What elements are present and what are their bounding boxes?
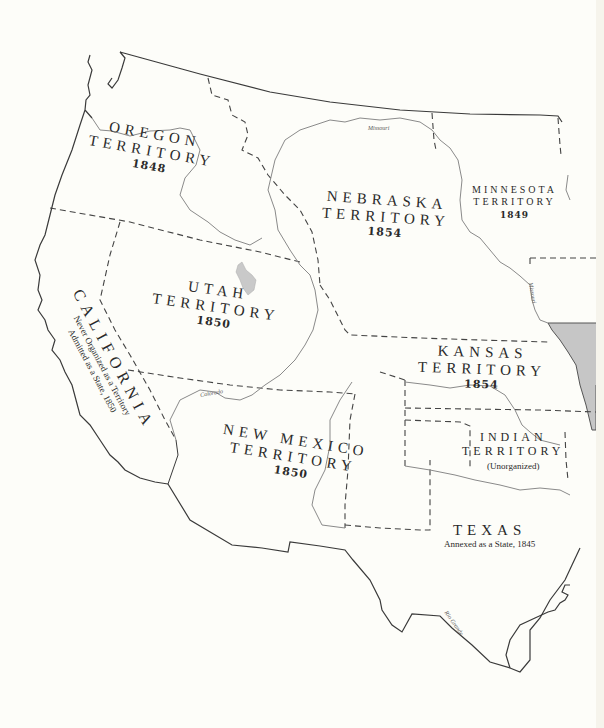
texas-name: TEXAS: [444, 522, 535, 539]
label-nebraska: NEBRASKA TERRITORY 1854: [320, 188, 451, 245]
texas-note: Annexed as a State, 1845: [444, 539, 535, 550]
minnesota-name: MINNESOTA: [472, 184, 557, 196]
minnesota-year: 1849: [472, 208, 557, 222]
gulf-coast: [506, 585, 570, 668]
river-label-missouri-upper: Missouri: [368, 125, 389, 131]
river-platte: [265, 190, 318, 385]
river-mississippi-upper: [566, 175, 570, 200]
california-east-boundary: [168, 440, 178, 484]
label-indian: INDIAN TERRITORY (Unorganized): [462, 430, 564, 472]
indian-name: INDIAN: [462, 430, 564, 444]
indian-name-2: TERRITORY: [462, 444, 564, 458]
minnesota-name-2: TERRITORY: [472, 196, 557, 208]
label-minnesota: MINNESOTA TERRITORY 1849: [472, 184, 557, 222]
indian-note: (Unorganized): [462, 461, 564, 472]
label-texas: TEXAS Annexed as a State, 1845: [444, 522, 535, 550]
label-kansas: KANSAS TERRITORY 1854: [417, 342, 547, 394]
page-edge: [596, 0, 604, 728]
